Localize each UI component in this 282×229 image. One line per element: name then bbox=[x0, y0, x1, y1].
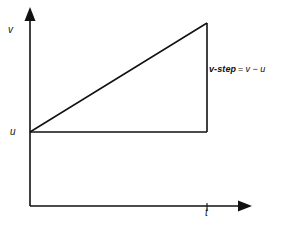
v-step-annotation: v-step=v − u bbox=[209, 65, 265, 74]
velocity-time-diagram bbox=[0, 0, 282, 229]
figure-canvas: v u t v-step=v − u bbox=[0, 0, 282, 229]
velocity-hypotenuse-line bbox=[30, 23, 207, 132]
v-step-term: v-step bbox=[209, 64, 236, 74]
v-step-expression: v − u bbox=[245, 64, 265, 74]
equals-operator: = bbox=[236, 64, 245, 74]
time-axis-label: t bbox=[205, 208, 208, 218]
velocity-axis-label: v bbox=[8, 25, 13, 35]
velocity-axis-arrowhead bbox=[25, 7, 36, 21]
time-axis-arrowhead bbox=[238, 201, 252, 212]
initial-velocity-label: u bbox=[10, 127, 16, 137]
